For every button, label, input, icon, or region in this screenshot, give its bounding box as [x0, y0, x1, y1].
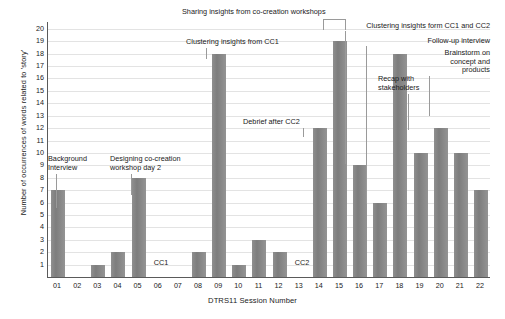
- leader-clustering-cc1-cc2: [345, 31, 346, 164]
- y-tick-label: 9: [24, 162, 44, 169]
- y-tick-label: 12: [24, 124, 44, 131]
- bar: [91, 265, 105, 277]
- y-tick-label: 13: [24, 112, 44, 119]
- y-tick-label: 16: [24, 75, 44, 82]
- y-tick-label: 6: [24, 199, 44, 206]
- x-axis-label: DTRS11 Session Number: [0, 296, 505, 305]
- annotation-debrief-cc2: Debrief after CC2: [243, 118, 335, 127]
- bar: [252, 240, 266, 277]
- y-tick-label: 18: [24, 50, 44, 57]
- bar: [474, 190, 488, 277]
- bar: [454, 153, 468, 277]
- leader-background-interview: [56, 174, 57, 208]
- bar: [51, 190, 65, 277]
- bar: [273, 252, 287, 277]
- bar: [434, 128, 448, 277]
- bar: [313, 128, 327, 277]
- annotation-brainstorm: Brainstorm on concept and products: [360, 49, 490, 75]
- y-tick-label: 20: [24, 25, 44, 32]
- bar: [132, 178, 146, 277]
- y-tick-label: 19: [24, 38, 44, 45]
- y-tick-label: 7: [24, 187, 44, 194]
- leader-designing-workshop: [131, 174, 132, 195]
- inline-note-cc2: CC2: [295, 258, 310, 267]
- bar: [414, 153, 428, 277]
- annotation-sharing-insights: Sharing insights from co-creation worksh…: [182, 8, 442, 17]
- annotation-background-interview: Background Interview: [48, 155, 112, 172]
- y-tick-label: 14: [24, 100, 44, 107]
- bar-chart: Number of occurrences of words related t…: [0, 0, 505, 319]
- bar: [353, 165, 367, 277]
- leader-clustering-cc1: [206, 48, 207, 59]
- y-tick-label: 10: [24, 149, 44, 156]
- annotation-clustering-cc1-cc2: Clustering insights form CC1 and CC2: [240, 22, 490, 31]
- y-tick-label: 3: [24, 236, 44, 243]
- y-tick-label: 17: [24, 62, 44, 69]
- y-tick-label: 15: [24, 87, 44, 94]
- y-tick-label: 4: [24, 224, 44, 231]
- inline-note-cc1: CC1: [154, 258, 169, 267]
- x-tick-label: 22: [467, 281, 493, 290]
- bar: [192, 252, 206, 277]
- bar: [111, 252, 125, 277]
- y-tick-label: 11: [24, 137, 44, 144]
- y-tick-label: 8: [24, 174, 44, 181]
- y-tick-label: 5: [24, 211, 44, 218]
- annotation-followup-interview: Follow-up interview: [300, 37, 490, 46]
- leader-recap: [408, 94, 409, 130]
- y-tick-label: 1: [24, 261, 44, 268]
- bar: [232, 265, 246, 277]
- y-tick-label: 2: [24, 249, 44, 256]
- annotation-designing-workshop: Designing co-creation workshop day 2: [110, 155, 220, 172]
- annotation-recap: Recap with stakeholders: [378, 75, 458, 92]
- leader-debrief-cc2: [303, 128, 304, 137]
- leader-sharing-insights-h: [323, 19, 345, 20]
- bar: [373, 203, 387, 277]
